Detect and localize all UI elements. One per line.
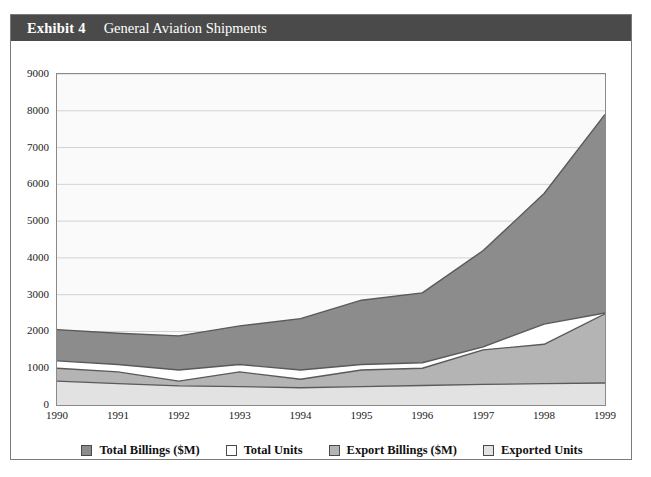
x-tick-label: 1994 — [290, 409, 312, 421]
x-tick-label: 1998 — [533, 409, 555, 421]
y-tick-label: 3000 — [27, 288, 49, 300]
legend-item[interactable]: Exported Units — [483, 443, 583, 458]
y-tick-label: 7000 — [27, 141, 49, 153]
legend-label: Export Billings ($M) — [347, 443, 457, 458]
x-tick-label: 1991 — [107, 409, 129, 421]
legend-swatch-icon — [329, 445, 340, 456]
chart-legend: Total Billings ($M)Total UnitsExport Bil… — [56, 439, 608, 461]
x-tick-label: 1996 — [411, 409, 433, 421]
exhibit-header: Exhibit 4 General Aviation Shipments — [11, 15, 631, 41]
legend-item[interactable]: Total Billings ($M) — [81, 443, 199, 458]
y-tick-label: 5000 — [27, 214, 49, 226]
plot-area — [56, 73, 606, 406]
exhibit-title: General Aviation Shipments — [104, 20, 267, 37]
x-tick-label: 1993 — [229, 409, 251, 421]
y-tick-label: 9000 — [27, 67, 49, 79]
x-tick-label: 1992 — [168, 409, 190, 421]
legend-swatch-icon — [226, 445, 237, 456]
legend-label: Total Units — [244, 443, 303, 458]
legend-label: Total Billings ($M) — [99, 443, 199, 458]
x-axis-labels: 1990199119921993199419951996199719981999 — [56, 409, 608, 429]
chart-body: 0100020003000400050006000700080009000 19… — [11, 41, 631, 461]
exhibit-number: Exhibit 4 — [27, 20, 86, 37]
x-tick-label: 1990 — [46, 409, 68, 421]
y-tick-label: 8000 — [27, 104, 49, 116]
legend-item[interactable]: Total Units — [226, 443, 303, 458]
area-chart-svg — [57, 74, 605, 405]
x-tick-label: 1995 — [350, 409, 372, 421]
y-axis-labels: 0100020003000400050006000700080009000 — [11, 65, 53, 415]
legend-label: Exported Units — [501, 443, 583, 458]
y-tick-label: 4000 — [27, 251, 49, 263]
y-tick-label: 1000 — [27, 361, 49, 373]
legend-item[interactable]: Export Billings ($M) — [329, 443, 457, 458]
y-tick-label: 2000 — [27, 324, 49, 336]
legend-swatch-icon — [81, 445, 92, 456]
exhibit-panel: Exhibit 4 General Aviation Shipments 010… — [10, 14, 632, 460]
x-tick-label: 1997 — [472, 409, 494, 421]
legend-swatch-icon — [483, 445, 494, 456]
x-tick-label: 1999 — [594, 409, 616, 421]
y-tick-label: 6000 — [27, 177, 49, 189]
